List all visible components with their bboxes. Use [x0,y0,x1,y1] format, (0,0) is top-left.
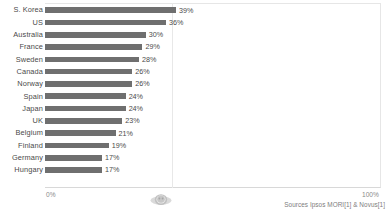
bar [45,167,102,173]
category-label: Hungary [0,166,43,173]
value-label: 17% [105,154,119,161]
bar-row: Japan24% [0,102,390,114]
value-label: 26% [135,68,149,75]
bar-row: France29% [0,41,390,53]
bar-track: 19% [45,139,390,151]
bar [45,93,126,99]
category-label: France [0,43,43,50]
bar [45,20,166,26]
axis-tick-min: 0% [46,191,56,198]
bar [45,143,109,149]
category-label: Belgium [0,129,43,136]
category-label: Canada [0,68,43,75]
category-label: Australia [0,31,43,38]
category-label: Germany [0,154,43,161]
bar [45,106,126,112]
bar [45,32,146,38]
bar-row: Canada26% [0,65,390,77]
bar-row: S. Korea39% [0,4,390,16]
bar [45,130,116,136]
bar [45,81,132,87]
category-label: Japan [0,105,43,112]
value-label: 24% [129,105,143,112]
bar [45,155,102,161]
value-label: 17% [105,166,119,173]
bar-row: Finland19% [0,139,390,151]
bar-track: 36% [45,16,390,28]
value-label: 30% [149,31,163,38]
bar-track: 24% [45,102,390,114]
bar [45,44,142,50]
category-label: US [0,19,43,26]
bar-track: 39% [45,4,390,16]
bar-track: 29% [45,41,390,53]
bar-track: 26% [45,65,390,77]
bar [45,118,122,124]
source-attribution: Sources Ipsos MORI[1] & Novus[1] [0,201,385,208]
bar-row: Belgium21% [0,127,390,139]
bar-track: 30% [45,29,390,41]
bar [45,7,176,13]
bar-track: 17% [45,164,390,176]
value-label: 24% [129,93,143,100]
category-label: S. Korea [0,6,43,13]
value-label: 36% [169,19,183,26]
category-label: Spain [0,93,43,100]
bar-row: UK23% [0,115,390,127]
bar-row: Norway26% [0,78,390,90]
bar-track: 26% [45,78,390,90]
bar [45,57,139,63]
value-label: 19% [112,142,126,149]
value-label: 39% [179,7,193,14]
bar-row: Germany17% [0,152,390,164]
bar [45,69,132,75]
value-label: 28% [142,56,156,63]
bar-row: US36% [0,16,390,28]
value-label: 23% [125,117,139,124]
bar-row: Australia30% [0,29,390,41]
value-label: 21% [119,130,133,137]
bar-track: 17% [45,152,390,164]
bar-track: 28% [45,53,390,65]
bar-track: 23% [45,115,390,127]
bar-row: Hungary17% [0,164,390,176]
category-label: Finland [0,142,43,149]
category-label: Norway [0,80,43,87]
bar-track: 24% [45,90,390,102]
bar-row: Spain24% [0,90,390,102]
value-label: 29% [145,43,159,50]
value-label: 26% [135,80,149,87]
category-label: Sweden [0,56,43,63]
chart-page: S. Korea39%US36%Australia30%France29%Swe… [0,0,390,215]
bar-track: 21% [45,127,390,139]
category-label: UK [0,117,43,124]
bar-rows: S. Korea39%US36%Australia30%France29%Swe… [0,4,390,176]
axis-tick-max: 100% [362,191,379,198]
bar-row: Sweden28% [0,53,390,65]
